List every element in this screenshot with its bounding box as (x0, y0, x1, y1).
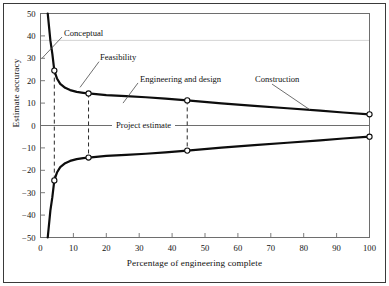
y-tick-label: −30 (14, 188, 36, 198)
y-tick-label: −40 (14, 210, 36, 220)
y-tick-label: 50 (14, 9, 36, 19)
x-axis-title: Percentage of engineering complete (0, 258, 389, 268)
figure-container: Percentage of engineering complete Estim… (0, 0, 389, 286)
phase-annotation-label: Engineering and design (140, 74, 221, 84)
y-tick-label: 20 (14, 76, 36, 86)
y-tick-label: 10 (14, 98, 36, 108)
y-tick-label: −20 (14, 165, 36, 175)
y-tick-label: −10 (14, 143, 36, 153)
x-tick-label: 50 (201, 243, 210, 253)
x-tick-label: 100 (363, 243, 376, 253)
y-tick-label: 40 (14, 31, 36, 41)
x-tick-label: 30 (135, 243, 144, 253)
x-tick-label: 10 (69, 243, 78, 253)
x-tick-label: 0 (38, 243, 42, 253)
phase-annotation-label: Feasibility (100, 52, 136, 62)
project-estimate-baseline-label: Project estimate (112, 120, 175, 130)
y-tick-label: −50 (14, 233, 36, 243)
x-tick-label: 70 (267, 243, 276, 253)
x-tick-label: 90 (332, 243, 341, 253)
x-tick-label: 80 (299, 243, 308, 253)
x-tick-label: 20 (102, 243, 111, 253)
phase-annotation-label: Conceptual (64, 28, 103, 38)
y-tick-label: 30 (14, 53, 36, 63)
x-tick-label: 40 (168, 243, 177, 253)
chart-canvas (0, 0, 389, 286)
x-tick-label: 60 (234, 243, 243, 253)
phase-annotation-label: Construction (255, 74, 299, 84)
y-tick-label: 0 (14, 121, 36, 131)
